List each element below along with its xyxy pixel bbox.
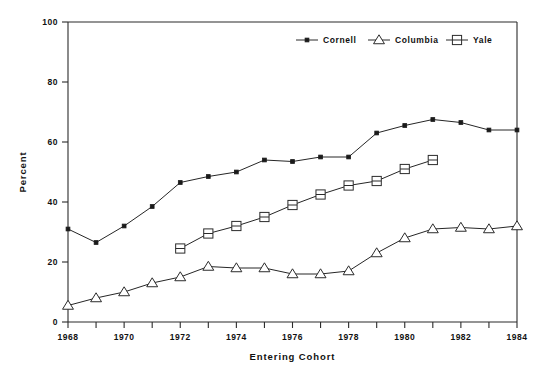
- legend-entry-columbia: Columbia: [368, 35, 439, 45]
- series-columbia-marker-triangle: [175, 272, 186, 281]
- series-cornell-marker-dot: [515, 128, 519, 132]
- chart-axis-titles: Entering CohortPercent: [17, 151, 335, 362]
- x-tick-label: 1980: [394, 332, 415, 342]
- legend-label-columbia: Columbia: [395, 35, 439, 45]
- series-cornell-marker-dot: [94, 241, 98, 245]
- series-cornell-marker-dot: [150, 205, 154, 209]
- legend-label-yale: Yale: [473, 35, 492, 45]
- series-columbia: [63, 221, 523, 309]
- x-tick-label: 1976: [282, 332, 303, 342]
- series-cornell-marker-dot: [487, 128, 491, 132]
- series-cornell-marker-dot: [403, 124, 407, 128]
- x-tick-label: 1982: [450, 332, 471, 342]
- x-tick-label: 1970: [114, 332, 135, 342]
- series-columbia-marker-triangle: [259, 263, 270, 272]
- series-cornell: [66, 118, 519, 245]
- series-columbia-marker-triangle: [512, 221, 523, 230]
- line-chart: 0204060801001968197019721974197619781980…: [0, 0, 554, 377]
- series-cornell-marker-dot: [291, 160, 295, 164]
- y-tick-label: 0: [53, 317, 58, 327]
- series-cornell-marker-dot: [375, 131, 379, 135]
- series-cornell-marker-dot: [234, 170, 238, 174]
- y-tick-label: 60: [48, 137, 58, 147]
- y-tick-label: 20: [48, 257, 58, 267]
- chart-legend: CornellColumbiaYale: [296, 35, 492, 45]
- series-cornell-marker-dot: [178, 181, 182, 185]
- series-cornell-marker-dot: [431, 118, 435, 122]
- legend-label-cornell: Cornell: [323, 35, 356, 45]
- chart-tick-labels: 0204060801001968197019721974197619781980…: [42, 17, 527, 342]
- series-columbia-marker-triangle: [343, 266, 354, 275]
- y-tick-label: 80: [48, 77, 58, 87]
- y-axis-title: Percent: [17, 151, 28, 192]
- series-cornell-marker-dot: [66, 227, 70, 231]
- series-cornell-marker-dot: [459, 121, 463, 125]
- x-tick-label: 1974: [226, 332, 247, 342]
- chart-series: [63, 118, 523, 310]
- series-cornell-marker-dot: [319, 155, 323, 159]
- series-columbia-marker-triangle: [231, 263, 242, 272]
- series-columbia-marker-triangle: [371, 248, 382, 257]
- series-columbia-marker-triangle: [455, 222, 466, 231]
- series-line-yale: [180, 160, 433, 249]
- series-columbia-marker-triangle: [427, 224, 438, 233]
- x-tick-label: 1968: [58, 332, 79, 342]
- legend-cornell-marker-dot: [305, 38, 309, 42]
- x-axis-title: Entering Cohort: [250, 351, 336, 362]
- x-tick-label: 1978: [338, 332, 359, 342]
- legend-columbia-marker-triangle: [374, 35, 385, 44]
- series-cornell-marker-dot: [347, 155, 351, 159]
- series-columbia-marker-triangle: [203, 261, 214, 270]
- chart-ticks: [62, 22, 517, 328]
- y-tick-label: 100: [42, 17, 58, 27]
- series-yale: [176, 155, 438, 253]
- series-cornell-marker-dot: [206, 175, 210, 179]
- legend-entry-cornell: Cornell: [296, 35, 356, 45]
- x-tick-label: 1972: [170, 332, 191, 342]
- y-tick-label: 40: [48, 197, 58, 207]
- legend-entry-yale: Yale: [446, 35, 492, 45]
- series-cornell-marker-dot: [122, 224, 126, 228]
- series-cornell-marker-dot: [263, 158, 267, 162]
- series-line-cornell: [68, 120, 517, 243]
- chart-container: 0204060801001968197019721974197619781980…: [0, 0, 554, 377]
- series-line-columbia: [68, 226, 517, 306]
- x-tick-label: 1984: [507, 332, 528, 342]
